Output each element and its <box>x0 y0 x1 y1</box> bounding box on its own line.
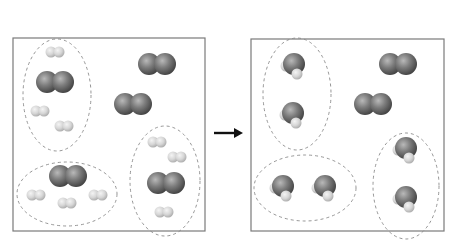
right-arrow-icon <box>214 128 243 138</box>
oxygen-atom <box>163 172 185 194</box>
reaction-diagram <box>0 0 456 245</box>
reactants-panel <box>13 38 205 236</box>
oxygen-atom <box>395 53 417 75</box>
hydrogen-atom <box>54 47 65 58</box>
oxygen-atom <box>65 165 87 187</box>
hydrogen-atom <box>404 153 415 164</box>
hydrogen-atom <box>281 191 292 202</box>
oxygen-atom <box>154 53 176 75</box>
arrow-head <box>234 128 243 138</box>
hydrogen-atom <box>39 106 50 117</box>
oxygen-atom <box>52 71 74 93</box>
hydrogen-atom <box>163 207 174 218</box>
hydrogen-atom <box>291 118 302 129</box>
hydrogen-atom <box>97 190 108 201</box>
oxygen-atom <box>370 93 392 115</box>
oxygen-atom <box>130 93 152 115</box>
hydrogen-atom <box>176 152 187 163</box>
hydrogen-atom <box>404 202 415 213</box>
hydrogen-atom <box>156 137 167 148</box>
products-panel <box>251 38 444 239</box>
hydrogen-atom <box>35 190 46 201</box>
reactants-box <box>13 38 205 231</box>
hydrogen-atom <box>66 198 77 209</box>
hydrogen-atom <box>63 121 74 132</box>
hydrogen-atom <box>323 191 334 202</box>
hydrogen-atom <box>292 69 303 80</box>
